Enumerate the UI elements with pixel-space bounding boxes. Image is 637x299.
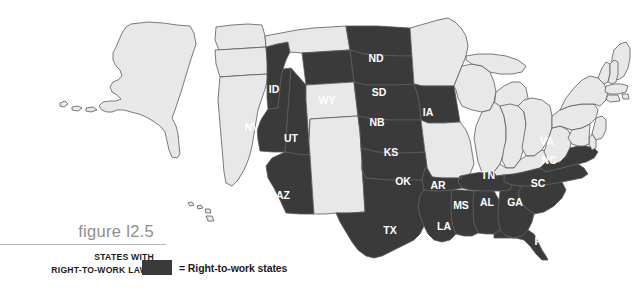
- state-hawaii-3: [205, 209, 211, 213]
- state-label-nc: NC: [541, 154, 557, 166]
- state-washington: [215, 24, 266, 50]
- state-new-mexico: [309, 116, 365, 214]
- figure-title-line-2: RIGHT-TO-WORK LAWS: [0, 264, 154, 276]
- state-missouri: [421, 120, 474, 178]
- state-arizona: [266, 152, 314, 214]
- state-label-ut: UT: [284, 132, 299, 144]
- figure-right-to-work-states: ND SD NB ID WY IA NV UT KS AZ OK AR TN V…: [0, 0, 637, 299]
- state-hawaii-1: [188, 202, 194, 206]
- state-label-sc: SC: [531, 177, 546, 189]
- legend-label-right-to-work: = Right-to-work states: [179, 262, 287, 274]
- state-label-id: ID: [269, 83, 280, 95]
- state-label-az: AZ: [276, 189, 291, 201]
- state-label-fl: FL: [535, 235, 548, 247]
- state-label-sd: SD: [372, 86, 387, 98]
- map-legend: = Right-to-work states: [142, 260, 287, 275]
- state-iowa: [414, 84, 460, 123]
- figure-title-line-1: STATES WITH: [0, 251, 154, 263]
- legend-swatch-right-to-work: [142, 260, 172, 275]
- state-hawaii-2: [197, 205, 203, 209]
- state-alaska-aleutians-2: [72, 106, 82, 111]
- state-label-tx: TX: [383, 224, 396, 236]
- state-alaska-aleutians-1: [60, 101, 68, 107]
- state-rhode-island: [622, 94, 629, 99]
- caption-divider: [0, 244, 166, 245]
- state-label-ia: IA: [423, 106, 434, 118]
- state-alaska-aleutians-3: [86, 107, 97, 112]
- state-massachusetts: [605, 84, 628, 94]
- state-connecticut: [606, 95, 620, 102]
- state-alaska: [99, 22, 196, 158]
- state-label-al: AL: [480, 196, 495, 208]
- state-label-ga: GA: [507, 196, 523, 208]
- state-label-ks: KS: [384, 146, 399, 158]
- state-nebraska: [354, 82, 421, 120]
- state-label-va: VA: [540, 135, 554, 147]
- state-pennsylvania: [552, 104, 598, 130]
- state-label-tn: TN: [481, 169, 495, 181]
- state-label-ar: AR: [430, 179, 446, 191]
- state-label-la: LA: [437, 220, 451, 232]
- state-wyoming: [302, 50, 354, 85]
- state-label-ok: OK: [395, 175, 411, 187]
- state-label-nd: ND: [368, 52, 384, 64]
- state-hawaii-4: [206, 216, 214, 221]
- state-louisiana: [418, 190, 456, 242]
- state-oregon: [215, 47, 268, 77]
- state-label-nv: NV: [245, 121, 260, 133]
- state-label-wy: WY: [319, 94, 336, 106]
- figure-number: figure l2.5: [0, 222, 166, 240]
- state-label-ms: MS: [453, 199, 469, 211]
- state-label-nb: NB: [369, 116, 385, 128]
